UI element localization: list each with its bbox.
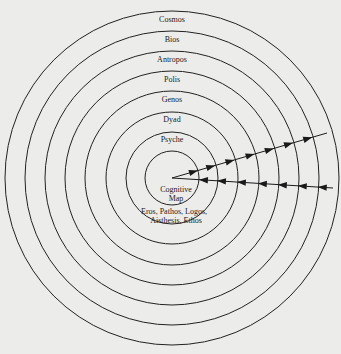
ring-label-polis: Polis: [164, 75, 180, 84]
ring-label-antropos: Antropos: [157, 55, 187, 64]
arrowhead-outward-icon: [264, 148, 274, 154]
core-sub-line1: Eros, Pathos, Logos,: [141, 207, 207, 216]
arrowhead-outward-icon: [188, 170, 198, 176]
arrowhead-outward-icon: [283, 142, 293, 148]
arrowhead-outward-icon: [206, 165, 216, 171]
ring-label-psyche: Psyche: [161, 135, 184, 144]
arrowhead-outward-icon: [303, 137, 313, 143]
arrows-group: [172, 133, 333, 191]
concentric-circles-diagram: Cosmos Bios Antropos Polis Genos Dyad Ps…: [0, 0, 341, 354]
ring-label-genos: Genos: [162, 95, 182, 104]
inward-arrow-line: [172, 178, 333, 188]
core-title-line2: Map: [169, 194, 184, 203]
core-title-line1: Cognitive: [160, 185, 192, 194]
arrowhead-outward-icon: [225, 159, 235, 165]
arrowhead-inward-icon: [199, 177, 208, 183]
ring-label-bios: Bios: [165, 35, 180, 44]
core-sub-line2: Aisthesis, Ethos: [150, 216, 202, 225]
ring-label-dyad: Dyad: [163, 115, 180, 124]
arrowhead-outward-icon: [245, 153, 255, 159]
ring-label-cosmos: Cosmos: [159, 15, 185, 24]
ring-labels: Cosmos Bios Antropos Polis Genos Dyad Ps…: [157, 15, 187, 144]
